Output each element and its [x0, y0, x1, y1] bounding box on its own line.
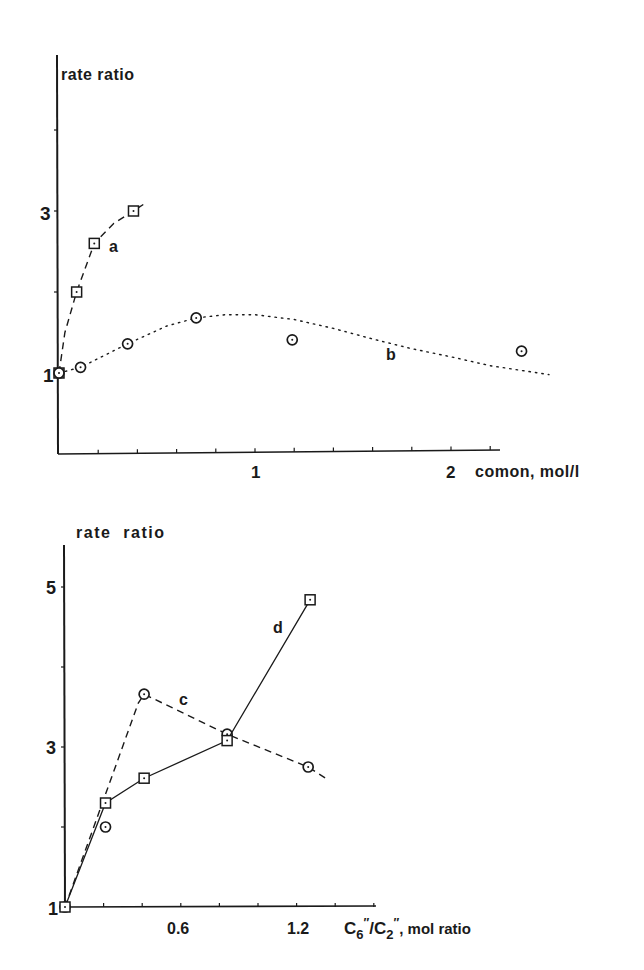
bottom-x-axis: [65, 906, 376, 907]
marker-dot: [93, 242, 95, 244]
marker-dot: [521, 350, 523, 352]
bottom-series: [60, 595, 326, 912]
top-x-tick-label-2: 2: [446, 463, 455, 482]
marker-dot: [76, 291, 78, 293]
series-label-c: c: [179, 691, 188, 708]
top-y-axis-label: rate ratio: [61, 66, 134, 83]
top-series: [54, 205, 549, 379]
top-x-axis-label: comon, mol/l: [475, 463, 580, 480]
marker-dot: [105, 826, 107, 828]
top-y-tick-label-3: 3: [40, 203, 51, 224]
series-label-a: a: [109, 238, 118, 255]
bottom-x-axis-label: C6″/C2″, mol ratio: [344, 916, 471, 942]
bottom-y-tick-label-5: 5: [46, 578, 56, 598]
top-chart: rate ratio 3 1 1 2 comon, mol/l a b: [40, 55, 580, 482]
bottom-y-axis-label: rate ratio: [76, 524, 165, 541]
bottom-y-tick-label-1: 1: [48, 899, 58, 919]
marker-dot: [226, 740, 228, 742]
x-label-c2: C: [374, 919, 386, 938]
series-label-b: b: [386, 346, 396, 363]
svg-text:C6″/C2″, mol ratio: C6″/C2″, mol ratio: [344, 916, 471, 942]
marker-dot: [105, 802, 107, 804]
marker-dot: [58, 372, 60, 374]
bottom-x-tick-label-0-6: 0.6: [167, 920, 189, 937]
marker-dot: [132, 210, 134, 212]
series-a: [54, 205, 143, 379]
x-label-tail: , mol ratio: [399, 920, 471, 937]
x-label-c6: C: [344, 919, 356, 938]
top-y-axis: [57, 55, 58, 454]
marker-dot: [64, 906, 66, 908]
top-x-tick-label-1: 1: [251, 463, 260, 482]
series-b: [54, 313, 549, 378]
bottom-x-tick-label-1-2: 1.2: [287, 920, 309, 937]
bottom-axes: [61, 545, 376, 907]
chart-canvas: rate ratio 3 1 1 2 comon, mol/l a b rate…: [0, 0, 644, 970]
series-d-line: [65, 600, 310, 907]
marker-dot: [195, 317, 197, 319]
top-y-tick-label-1: 1: [43, 365, 54, 386]
top-axes: [54, 55, 500, 454]
series-label-d: d: [273, 619, 283, 636]
bottom-y-tick-label-3: 3: [46, 738, 56, 758]
marker-dot: [80, 366, 82, 368]
top-x-axis: [58, 450, 500, 454]
marker-dot: [127, 343, 129, 345]
marker-dot: [291, 339, 293, 341]
marker-dot: [143, 777, 145, 779]
marker-dot: [309, 599, 311, 601]
x-label-sub6: 6: [356, 927, 363, 942]
marker-dot: [307, 766, 309, 768]
bottom-chart: rate ratio 5 3 1 0.6 1.2 C6″/C2″, mol ra…: [46, 524, 471, 942]
bottom-y-axis: [64, 545, 65, 907]
x-label-sub2: 2: [386, 927, 393, 942]
series-d: [60, 595, 315, 912]
marker-dot: [143, 693, 145, 695]
